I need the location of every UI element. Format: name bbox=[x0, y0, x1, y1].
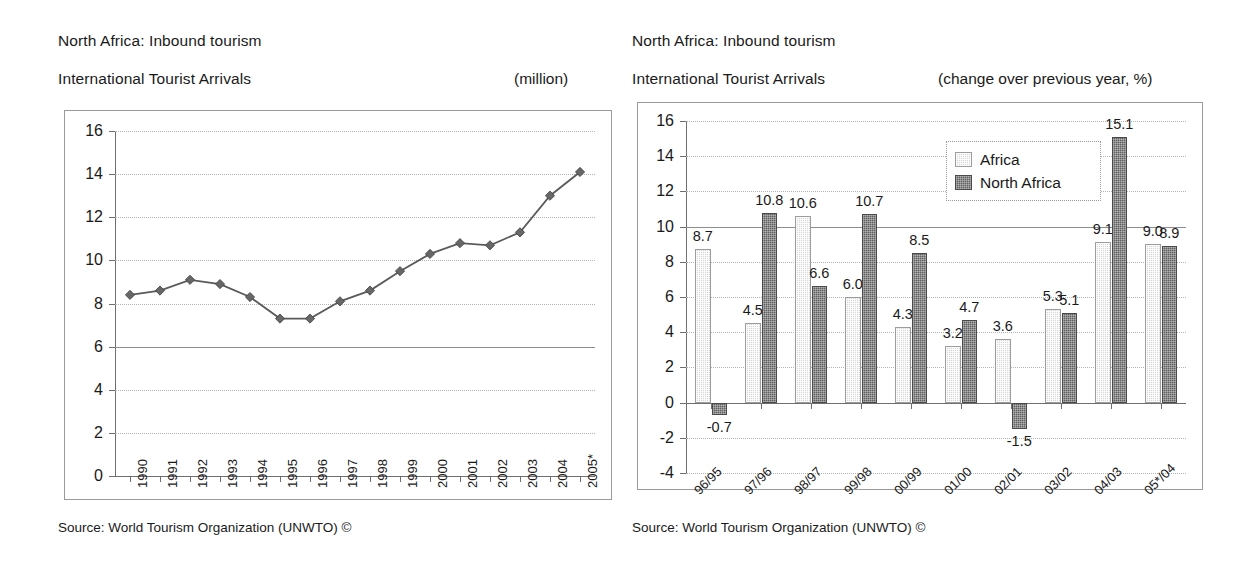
right-y-tick-label: 16 bbox=[640, 112, 674, 130]
legend-label-north-africa: North Africa bbox=[980, 174, 1061, 192]
bar-africa[interactable] bbox=[745, 323, 761, 402]
left-x-tick-mark bbox=[250, 476, 251, 482]
bar-value-label: 3.6 bbox=[982, 318, 1024, 334]
left-chart-frame: 0246810121416199019911992199319941995199… bbox=[64, 110, 612, 500]
left-plot-area: 0246810121416199019911992199319941995199… bbox=[115, 131, 595, 476]
left-y-tick-label: 4 bbox=[67, 381, 103, 399]
left-y-tick-label: 14 bbox=[67, 165, 103, 183]
left-y-tick-label: 16 bbox=[67, 122, 103, 140]
bar-value-label: 8.7 bbox=[682, 228, 724, 244]
left-x-tick-mark bbox=[520, 476, 521, 482]
right-y-tick-label: 6 bbox=[640, 288, 674, 306]
left-y-tick-label: 10 bbox=[67, 251, 103, 269]
left-x-tick-mark bbox=[310, 476, 311, 482]
bar-chart-panel: North Africa: Inbound tourism Internatio… bbox=[620, 0, 1240, 580]
right-x-tick-label: 96/95 bbox=[691, 464, 725, 498]
right-chart-title-line2: International Tourist Arrivals bbox=[632, 70, 825, 88]
right-y-tick-label: 0 bbox=[640, 394, 674, 412]
right-y-tick-mark bbox=[680, 297, 686, 298]
left-y-tick-label: 6 bbox=[67, 338, 103, 356]
bar-africa[interactable] bbox=[995, 339, 1011, 402]
bar-africa[interactable] bbox=[845, 297, 861, 403]
left-chart-title-line1: North Africa: Inbound tourism bbox=[58, 32, 262, 50]
left-x-tick-mark bbox=[130, 476, 131, 482]
bar-north-africa[interactable] bbox=[812, 286, 828, 402]
line-chart-panel: North Africa: Inbound tourism Internatio… bbox=[0, 0, 620, 580]
bar-north-africa[interactable] bbox=[762, 213, 778, 403]
right-x-tick-label: 04/03 bbox=[1091, 464, 1125, 498]
right-y-tick-mark bbox=[680, 262, 686, 263]
right-x-tick-label: 02/01 bbox=[991, 464, 1025, 498]
bar-africa[interactable] bbox=[1095, 242, 1111, 402]
right-chart-frame: -4-2024681012141696/958.7-0.797/964.510.… bbox=[637, 102, 1203, 490]
bar-value-label: 15.1 bbox=[1099, 116, 1141, 132]
legend-item-north-africa: North Africa bbox=[955, 171, 1090, 194]
right-x-tick-label: 03/02 bbox=[1041, 464, 1075, 498]
bar-africa[interactable] bbox=[1145, 244, 1161, 402]
left-x-tick-mark bbox=[430, 476, 431, 482]
bar-north-africa[interactable] bbox=[912, 253, 928, 403]
right-x-tick-mark bbox=[961, 403, 962, 409]
left-x-tick-mark bbox=[190, 476, 191, 482]
left-chart-unit-label: (million) bbox=[514, 70, 568, 88]
left-chart-source: Source: World Tourism Organization (UNWT… bbox=[58, 520, 352, 535]
bar-value-label: 8.9 bbox=[1149, 225, 1191, 241]
bar-north-africa[interactable] bbox=[962, 320, 978, 403]
right-y-tick-mark bbox=[680, 473, 686, 474]
right-x-tick-label: 97/96 bbox=[741, 464, 775, 498]
right-y-tick-mark bbox=[680, 156, 686, 157]
right-y-tick-label: 12 bbox=[640, 182, 674, 200]
right-y-tick-label: -2 bbox=[640, 429, 674, 447]
bar-africa[interactable] bbox=[945, 346, 961, 402]
bar-africa[interactable] bbox=[695, 249, 711, 402]
figure-pair: North Africa: Inbound tourism Internatio… bbox=[0, 0, 1240, 580]
left-x-tick-mark bbox=[370, 476, 371, 482]
right-y-tick-mark bbox=[680, 227, 686, 228]
bar-value-label: -0.7 bbox=[699, 419, 741, 435]
legend-swatch-africa bbox=[955, 152, 972, 167]
right-plot-area: -4-2024681012141696/958.7-0.797/964.510.… bbox=[686, 121, 1186, 473]
bar-north-africa[interactable] bbox=[1062, 313, 1078, 403]
bar-value-label: 4.7 bbox=[949, 299, 991, 315]
chart-legend: Africa North Africa bbox=[946, 141, 1101, 201]
bar-north-africa[interactable] bbox=[1012, 403, 1028, 429]
left-x-tick-mark bbox=[340, 476, 341, 482]
bar-africa[interactable] bbox=[795, 216, 811, 403]
left-x-tick-mark bbox=[160, 476, 161, 482]
bar-value-label: 5.1 bbox=[1049, 292, 1091, 308]
left-x-tick-mark bbox=[550, 476, 551, 482]
right-x-tick-label: 05*/04 bbox=[1141, 460, 1178, 497]
right-x-tick-mark bbox=[1161, 403, 1162, 409]
left-x-tick-mark bbox=[460, 476, 461, 482]
left-x-tick-mark bbox=[220, 476, 221, 482]
left-y-tick-label: 8 bbox=[67, 295, 103, 313]
right-y-tick-mark bbox=[680, 121, 686, 122]
right-y-tick-label: 10 bbox=[640, 218, 674, 236]
right-x-tick-mark bbox=[1061, 403, 1062, 409]
bar-north-africa[interactable] bbox=[712, 403, 728, 415]
right-gridline bbox=[686, 438, 1186, 439]
right-x-tick-mark bbox=[811, 403, 812, 409]
bar-value-label: 10.6 bbox=[782, 195, 824, 211]
bar-north-africa[interactable] bbox=[1112, 137, 1128, 403]
right-x-tick-mark bbox=[761, 403, 762, 409]
bar-north-africa[interactable] bbox=[862, 214, 878, 402]
right-y-tick-label: 14 bbox=[640, 147, 674, 165]
bar-north-africa[interactable] bbox=[1162, 246, 1178, 403]
bar-africa[interactable] bbox=[1045, 309, 1061, 402]
legend-label-africa: Africa bbox=[980, 151, 1020, 169]
left-line-series bbox=[115, 131, 595, 476]
bar-value-label: 8.5 bbox=[899, 232, 941, 248]
bar-africa[interactable] bbox=[895, 327, 911, 403]
right-x-tick-label: 98/97 bbox=[791, 464, 825, 498]
right-chart-title-line1: North Africa: Inbound tourism bbox=[632, 32, 836, 50]
right-y-tick-mark bbox=[680, 367, 686, 368]
left-y-tick-label: 12 bbox=[67, 208, 103, 226]
right-chart-unit-label: (change over previous year, %) bbox=[938, 70, 1153, 88]
right-chart-source: Source: World Tourism Organization (UNWT… bbox=[632, 520, 926, 535]
legend-item-africa: Africa bbox=[955, 148, 1090, 171]
right-x-tick-label: 00/99 bbox=[891, 464, 925, 498]
left-x-tick-mark bbox=[490, 476, 491, 482]
right-x-tick-label: 99/98 bbox=[841, 464, 875, 498]
right-y-tick-mark bbox=[680, 438, 686, 439]
